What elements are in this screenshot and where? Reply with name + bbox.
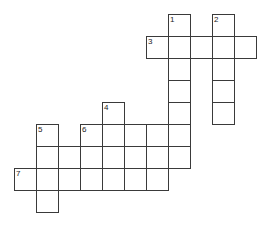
crossword-cell[interactable] xyxy=(168,80,191,103)
crossword-cell[interactable] xyxy=(124,146,147,169)
crossword-cell[interactable] xyxy=(168,124,191,147)
crossword-cell[interactable] xyxy=(212,36,235,59)
crossword-cell-numbered-3[interactable]: 3 xyxy=(146,36,169,59)
crossword-cell[interactable] xyxy=(168,146,191,169)
crossword-cell[interactable] xyxy=(212,102,235,125)
crossword-cell[interactable] xyxy=(58,146,81,169)
crossword-cell[interactable] xyxy=(102,146,125,169)
crossword-cell-numbered-2[interactable]: 2 xyxy=(212,14,235,37)
crossword-cell[interactable] xyxy=(58,168,81,191)
crossword-cell[interactable] xyxy=(102,124,125,147)
clue-number-2: 2 xyxy=(214,15,218,24)
crossword-grid: 1234567 xyxy=(0,0,269,228)
crossword-cell[interactable] xyxy=(36,168,59,191)
crossword-cell-numbered-7[interactable]: 7 xyxy=(14,168,37,191)
crossword-cell[interactable] xyxy=(146,146,169,169)
clue-number-3: 3 xyxy=(148,37,152,46)
clue-number-1: 1 xyxy=(170,15,174,24)
crossword-cell-numbered-5[interactable]: 5 xyxy=(36,124,59,147)
crossword-cell[interactable] xyxy=(168,36,191,59)
crossword-cell[interactable] xyxy=(168,102,191,125)
crossword-cell[interactable] xyxy=(212,80,235,103)
crossword-cell-numbered-1[interactable]: 1 xyxy=(168,14,191,37)
crossword-cell[interactable] xyxy=(36,190,59,213)
crossword-cell-numbered-4[interactable]: 4 xyxy=(102,102,125,125)
crossword-cell[interactable] xyxy=(124,168,147,191)
clue-number-4: 4 xyxy=(104,103,108,112)
crossword-cell-numbered-6[interactable]: 6 xyxy=(80,124,103,147)
crossword-cell[interactable] xyxy=(36,146,59,169)
crossword-cell[interactable] xyxy=(124,124,147,147)
crossword-cell[interactable] xyxy=(234,36,257,59)
crossword-cell[interactable] xyxy=(146,168,169,191)
crossword-cell[interactable] xyxy=(80,168,103,191)
crossword-cell[interactable] xyxy=(146,124,169,147)
crossword-cell[interactable] xyxy=(190,36,213,59)
crossword-cell[interactable] xyxy=(102,168,125,191)
crossword-cell[interactable] xyxy=(168,58,191,81)
clue-number-6: 6 xyxy=(82,125,86,134)
crossword-cell[interactable] xyxy=(212,58,235,81)
clue-number-5: 5 xyxy=(38,125,42,134)
clue-number-7: 7 xyxy=(16,169,20,178)
crossword-cell[interactable] xyxy=(80,146,103,169)
